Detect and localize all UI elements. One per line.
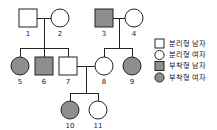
legend-icon-circle-open [155,50,164,59]
individual-5-id: 5 [18,78,22,86]
individual-4-id: 4 [132,30,137,38]
individual-6-symbol-male-affected[interactable] [35,57,53,75]
pedigree-canvas: 1 2 3 4 5 6 7 8 9 10 11 [0,0,217,130]
individual-6-id: 6 [42,78,47,86]
individual-10-symbol-female-affected[interactable] [61,101,79,119]
legend-icon-square-filled [155,62,164,71]
individual-4-symbol-female-unaffected[interactable] [125,9,143,27]
individual-1-id: 1 [26,30,30,38]
individual-10-id: 10 [66,122,75,130]
individual-3-symbol-male-affected[interactable] [95,9,113,27]
individual-7-symbol-male-unaffected[interactable] [59,57,77,75]
individual-9-id: 9 [130,78,134,86]
individual-11-symbol-female-unaffected[interactable] [89,101,107,119]
legend-label-unaffected-male: 분리형 남자 [169,39,206,48]
individual-8-id: 8 [102,78,106,86]
individual-1-symbol-male-unaffected[interactable] [19,9,37,27]
individual-9-symbol-female-affected[interactable] [123,57,141,75]
individual-8-symbol-female-unaffected[interactable] [95,57,113,75]
generation-3: 10 11 [61,101,107,130]
individual-2-id: 2 [58,30,62,38]
legend-label-affected-male: 부착형 남자 [169,61,206,70]
pedigree-chart: 1 2 3 4 5 6 7 8 9 10 11 [0,0,217,130]
legend: 분리형 남자 분리형 여자 부착형 남자 부착형 여자 [155,39,206,82]
generation-2: 5 6 7 8 9 [11,57,141,86]
legend-icon-circle-filled [155,73,164,82]
individual-2-symbol-female-unaffected[interactable] [51,9,69,27]
individual-11-id: 11 [94,122,103,130]
generation-1: 1 2 3 4 [19,9,143,38]
individual-7-id: 7 [66,78,70,86]
individual-5-symbol-female-affected[interactable] [11,57,29,75]
individual-3-id: 3 [102,30,106,38]
legend-icon-square-open [155,39,164,48]
legend-label-unaffected-female: 분리형 여자 [169,50,206,59]
legend-label-affected-female: 부착형 여자 [169,73,206,82]
